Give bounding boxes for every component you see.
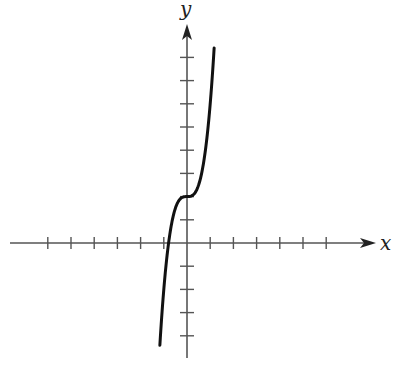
axes xyxy=(10,24,376,358)
cubic-function-graph: x y xyxy=(0,0,397,365)
y-axis-label: y xyxy=(179,0,192,21)
x-axis-label: x xyxy=(380,231,391,255)
